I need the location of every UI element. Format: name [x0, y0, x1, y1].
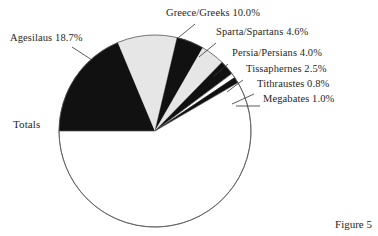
slice-label-greece: Greece/Greeks 10.0%	[166, 8, 260, 19]
slice-label-tissaphernes: Tissaphernes 2.5%	[246, 64, 327, 75]
slice-label-persia: Persia/Persians 4.0%	[232, 48, 322, 59]
figure-container: Agesilaus 18.7% Greece/Greeks 10.0% Spar…	[0, 0, 378, 236]
slice-label-totals: Totals	[13, 119, 40, 130]
slice-label-agesilaus: Agesilaus 18.7%	[10, 33, 83, 44]
slice-label-tithraustes: Tithraustes 0.8%	[257, 79, 329, 90]
pie-slice-group	[59, 35, 251, 227]
figure-caption: Figure 5	[335, 218, 372, 230]
leader-line-agesilaus	[72, 47, 92, 60]
leader-line-greece	[179, 24, 196, 38]
slice-label-sparta: Sparta/Spartans 4.6%	[216, 27, 308, 38]
slice-label-megabates: Megabates 1.0%	[263, 94, 334, 105]
